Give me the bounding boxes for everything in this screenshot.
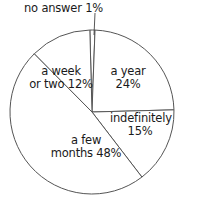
- pie-chart: [0, 0, 202, 198]
- label-a-year: a year 24%: [106, 65, 150, 91]
- label-a-week-or-two: a week or two 12%: [28, 65, 94, 91]
- label-a-few-months-line2: months 48%: [46, 147, 126, 160]
- label-a-week-line2: or two 12%: [28, 78, 94, 91]
- label-a-few-months: a few months 48%: [46, 134, 126, 160]
- label-no-answer: no answer 1%: [24, 2, 103, 15]
- label-a-year-line2: 24%: [106, 78, 150, 91]
